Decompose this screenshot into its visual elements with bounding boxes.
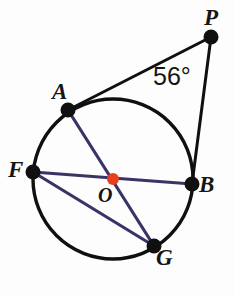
point-label-f: F (8, 158, 23, 181)
geometry-canvas (0, 0, 234, 295)
point-dot-p (204, 30, 219, 45)
segment-pb-secant (192, 37, 211, 184)
point-label-b: B (199, 173, 214, 196)
point-label-o: O (98, 185, 112, 205)
angle-measure-label-p: 56° (153, 64, 191, 89)
point-label-g: G (156, 246, 173, 269)
geometry-figure: P A F B O G 56° (0, 0, 234, 295)
chord-fg (33, 172, 154, 246)
point-dot-f (26, 165, 41, 180)
point-label-a: A (52, 80, 67, 103)
point-dot-b (185, 177, 200, 192)
point-label-p: P (204, 6, 218, 29)
point-dot-a (61, 103, 76, 118)
